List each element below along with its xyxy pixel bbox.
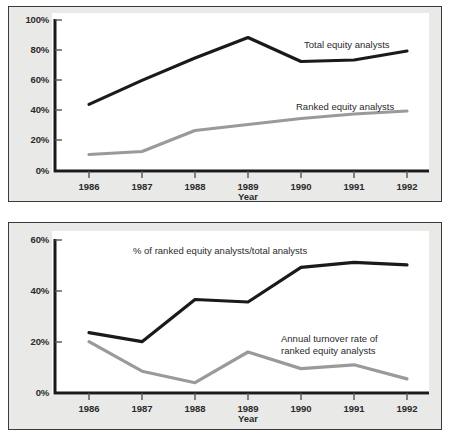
bottom-chart-panel: 60% 40% 20% 0% 1986 1987 1988 1989 1990 …	[8, 222, 442, 430]
bottom-series-label-pct-ranked-of-total: % of ranked equity analysts/total analys…	[133, 245, 307, 257]
bottom-x-axis-title: Year	[228, 413, 268, 424]
bottom-ylabel-20: 20%	[7, 336, 49, 347]
top-ylabel-0: 0%	[7, 165, 49, 176]
bottom-xlabel-1986: 1986	[69, 403, 109, 414]
top-ylabel-20: 20%	[7, 134, 49, 145]
top-xlabel-1991: 1991	[334, 181, 374, 192]
top-xlabel-1986: 1986	[69, 181, 109, 192]
bottom-ylabel-40: 40%	[7, 285, 49, 296]
top-x-axis-title: Year	[228, 191, 268, 202]
bottom-xlabel-1987: 1987	[122, 403, 162, 414]
bottom-xlabel-1990: 1990	[281, 403, 321, 414]
top-xlabel-1987: 1987	[122, 181, 162, 192]
top-xlabel-1990: 1990	[281, 181, 321, 192]
top-chart-panel: 100% 80% 60% 40% 20% 0% 1986 1987 1988 1…	[8, 6, 442, 202]
top-series-label-total-equity-analysts: Total equity analysts	[304, 39, 390, 51]
bottom-ylabel-0: 0%	[7, 387, 49, 398]
figure-container: 100% 80% 60% 40% 20% 0% 1986 1987 1988 1…	[0, 0, 450, 436]
bottom-series-pct-ranked-of-total	[89, 262, 407, 341]
top-series-ranked-equity-analysts	[89, 111, 407, 155]
bottom-series-label-annual-turnover-line1: Annual turnover rate of	[281, 333, 378, 345]
bottom-ylabel-60: 60%	[7, 234, 49, 245]
top-series-label-ranked-equity-analysts: Ranked equity analysts	[296, 101, 394, 113]
bottom-xlabel-1992: 1992	[387, 403, 427, 414]
top-xlabel-1988: 1988	[175, 181, 215, 192]
bottom-xlabel-1988: 1988	[175, 403, 215, 414]
top-ylabel-100: 100%	[7, 14, 49, 25]
top-ylabel-40: 40%	[7, 104, 49, 115]
bottom-series-label-annual-turnover-line2: ranked equity analysts	[281, 345, 376, 357]
top-xlabel-1992: 1992	[387, 181, 427, 192]
bottom-xlabel-1991: 1991	[334, 403, 374, 414]
top-ylabel-60: 60%	[7, 74, 49, 85]
top-ylabel-80: 80%	[7, 44, 49, 55]
